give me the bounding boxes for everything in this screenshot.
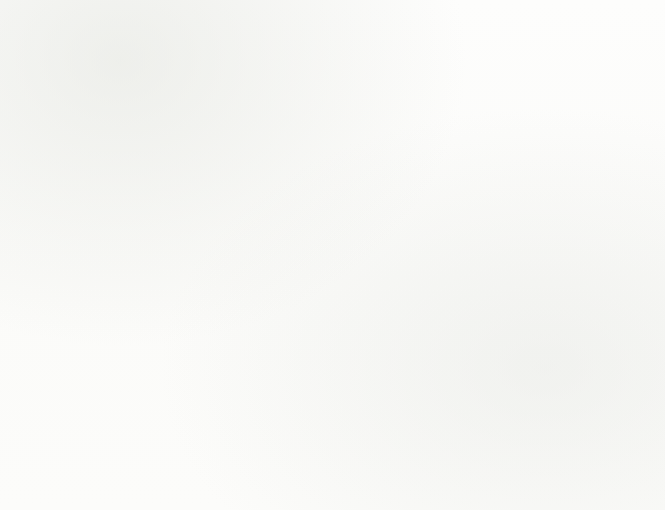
trade-balance-point <box>188 269 202 283</box>
trade-balance-point <box>471 313 485 327</box>
trade-balance-point <box>430 318 444 332</box>
chart-plot-area: 50403020100−10−20−30−40−50 2001200220032… <box>0 0 665 510</box>
trade-balance-point <box>350 313 364 327</box>
trade-balance-point <box>551 336 565 350</box>
trade-balance-point <box>229 277 243 291</box>
trade-balance-point <box>108 261 122 275</box>
trade-balance-point <box>269 284 283 298</box>
trade-balance-line <box>0 0 665 510</box>
trade-balance-point <box>592 336 606 350</box>
trade-balance-point <box>511 334 525 348</box>
trade-balance-point <box>390 332 404 346</box>
trade-balance-point <box>309 288 323 302</box>
trade-balance-point <box>148 263 162 277</box>
